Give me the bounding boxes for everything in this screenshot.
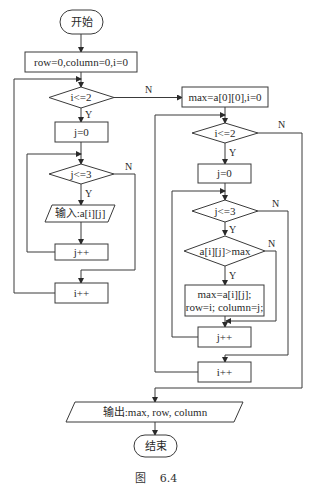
- start-label: 开始: [71, 15, 93, 28]
- yes-label: Y: [85, 109, 92, 120]
- init-max-label: max=a[0][0],i=0: [188, 91, 262, 103]
- cond-i-right-label: i<=2: [215, 127, 236, 139]
- yes-label: Y: [85, 188, 92, 199]
- cond-j-left-label: j<=3: [70, 168, 92, 180]
- j0-left-label: j=0: [73, 126, 89, 138]
- yes-label: Y: [229, 270, 236, 281]
- no-label: N: [278, 119, 285, 130]
- output-label: 输出:max, row, column: [103, 405, 208, 418]
- ipp-right-label: i++: [217, 366, 232, 378]
- end-label: 结束: [145, 440, 167, 452]
- edge-ipp-left-loop: [14, 79, 81, 293]
- cond-i-left-label: i<=2: [71, 91, 92, 103]
- cond-max-label: a[i][j]>max: [200, 245, 251, 257]
- yes-label: Y: [229, 224, 236, 235]
- no-label: N: [125, 161, 132, 172]
- init-label: row=0,column=0,i=0: [34, 56, 128, 68]
- yes-label: Y: [229, 147, 236, 158]
- jpp-right-label: j++: [216, 331, 232, 343]
- no-label: N: [272, 198, 279, 209]
- figure-caption: 图 6.4: [135, 472, 177, 485]
- no-label: N: [145, 84, 152, 95]
- j0-right-label: j=0: [216, 167, 232, 179]
- no-label: N: [268, 238, 275, 249]
- assign-label-line2: row=i; column=j;: [186, 301, 263, 313]
- jpp-left-label: j++: [73, 246, 89, 258]
- assign-label-line1: max=a[i][j];: [198, 288, 252, 300]
- cond-j-right-label: j<=3: [214, 205, 236, 217]
- flowchart: 开始 row=0,column=0,i=0 i<=2 N Y j=0 j<=3 …: [0, 0, 315, 489]
- ipp-left-label: i++: [74, 287, 89, 299]
- input-label: 输入:a[i][j]: [55, 206, 106, 219]
